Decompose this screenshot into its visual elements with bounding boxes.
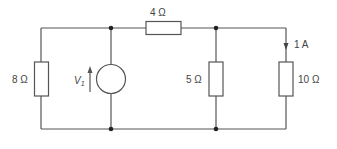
node-bottom-left <box>109 127 114 132</box>
resistor-8-ohm <box>35 62 49 96</box>
label-current: 1 A <box>294 39 309 50</box>
node-top-left <box>109 26 114 31</box>
resistor-5-ohm <box>209 62 223 96</box>
node-bottom-right <box>214 127 219 132</box>
source-arrow-icon <box>88 66 93 92</box>
label-source: V1 <box>74 75 85 87</box>
current-arrow-icon <box>284 43 289 50</box>
label-8-ohm: 8 Ω <box>12 74 28 85</box>
label-5-ohm: 5 Ω <box>186 74 202 85</box>
voltage-source <box>97 65 126 94</box>
resistor-4-ohm <box>146 22 181 35</box>
circuit-diagram: 8 Ω 4 Ω 5 Ω 10 Ω 1 A V1 <box>0 0 337 149</box>
label-4-ohm: 4 Ω <box>150 7 166 18</box>
node-top-right <box>214 26 219 31</box>
resistor-10-ohm <box>279 62 293 96</box>
label-10-ohm: 10 Ω <box>298 74 320 85</box>
